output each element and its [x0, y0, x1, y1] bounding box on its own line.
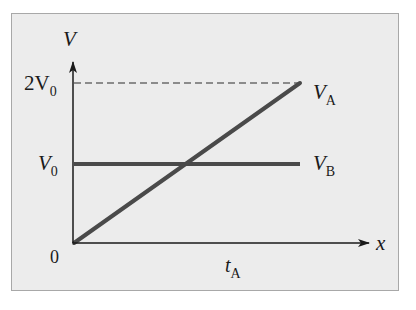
- va-subscript: A: [326, 93, 337, 108]
- y-axis-label: V: [63, 27, 78, 51]
- va-label: VA: [313, 80, 337, 108]
- two-v0-label: 2V0: [24, 71, 57, 99]
- x-axis-label: x: [375, 231, 386, 255]
- two-v0-subscript: 0: [50, 84, 57, 99]
- ta-label: tA: [225, 254, 242, 281]
- two-v0-main: 2V: [24, 71, 50, 95]
- ta-subscript: A: [231, 266, 242, 281]
- vb-subscript: B: [326, 164, 335, 179]
- origin-label: 0: [50, 247, 59, 267]
- vb-label: VB: [313, 151, 335, 179]
- velocity-diagram: V 2V0 V0 0 x tA VA VB: [0, 0, 416, 310]
- v0-label: V0: [38, 151, 58, 179]
- v0-subscript: 0: [51, 164, 58, 179]
